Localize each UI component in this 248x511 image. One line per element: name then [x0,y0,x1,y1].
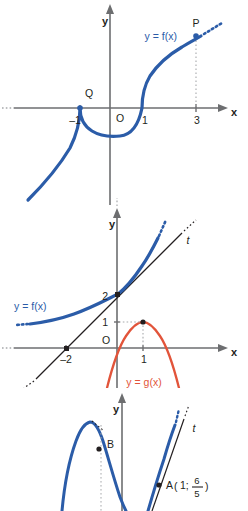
curve-f-continuation-dotted [204,23,222,34]
figure-1-x-axis-label: x [231,106,238,118]
x-axis-arrowhead [218,104,228,112]
curve-right-branch [148,425,175,511]
tangent-line-t-dotted-high [184,220,196,231]
figure-3-point-A-frac-numerator: 6 [194,475,199,486]
figure-2-graph-f-g-tangent: y x O 2 1 –2 1 y = f(x) y = g(x) t [0,196,248,388]
point-2-marker [115,292,120,297]
figure-3-y-axis-label: y [113,403,120,415]
curve-f-left-dotted [16,324,28,325]
figure-1-y-axis-label: y [102,15,109,27]
point-minus2-marker [64,346,69,351]
curve-f-right-dotted [159,220,166,236]
figure-1-xtick-label-3: 3 [194,114,200,126]
figure-2-tangent-label: t [187,234,191,246]
figure-3-point-B-label: B [107,438,114,450]
figure-3-point-A-close-paren: ) [205,480,209,492]
tangent-line-t-dotted [185,405,189,416]
x-axis-arrowhead [218,344,228,352]
figure-3-point-A-arg: 1; [180,479,189,491]
figure-1-xtick-label-minus1: –1 [69,114,81,126]
curve-left-branch [62,422,126,511]
figure-1-point-P-label: P [192,17,199,29]
curve-f-of-x [30,238,158,324]
point-Q-marker [77,105,83,111]
tangent-line-t [152,419,184,511]
figure-3-svg: y t B A ( 1; 6 5 ) [0,385,248,511]
figure-2-xtick-label-minus2: –2 [60,353,72,365]
figure-3-point-A-label-group: A ( 1; 6 5 ) [166,475,209,499]
figure-3-point-A-open-paren: ( [174,480,178,492]
figure-2-origin-label: O [102,334,110,346]
curve-f-of-x [28,36,201,200]
tangent-line-t [36,233,182,379]
figure-1-graph-f-with-P-and-Q: y x O –1 1 3 Q P y = f(x) [0,0,248,205]
figure-3-point-A-frac-denominator: 5 [194,488,199,499]
point-B-marker [96,446,101,451]
y-axis-arrowhead [106,4,114,14]
figure-2-y-axis-label: y [109,218,116,230]
figure-2-ytick-label-2: 2 [102,290,108,302]
figure-2-x-axis-label: x [231,346,238,358]
point-P-marker [193,33,199,39]
curve-right-branch-dotted [176,409,179,422]
figure-1-curve-label: y = f(x) [145,30,177,42]
figure-3-graph-with-A-and-B: y t B A ( 1; 6 5 ) [0,385,248,511]
point-g-vertex-marker [140,319,145,324]
figure-1-xtick-label-1: 1 [142,114,148,126]
y-axis-arrowhead [118,393,126,403]
figure-3-tangent-label: t [193,422,197,434]
point-A-marker [156,482,161,487]
y-axis-arrowhead [113,208,121,218]
figure-1-point-Q-label: Q [85,87,93,99]
figure-1-origin-label: O [116,112,124,124]
figure-3-point-A-label: A [166,479,173,491]
figure-2-ytick-label-1: 1 [102,316,108,328]
figure-2-xtick-label-1: 1 [141,353,147,365]
figure-2-svg: y x O 2 1 –2 1 y = f(x) y = g(x) t [0,196,248,388]
figure-2-curve-f-label: y = f(x) [14,300,46,312]
figure-1-svg: y x O –1 1 3 Q P y = f(x) [0,0,248,205]
